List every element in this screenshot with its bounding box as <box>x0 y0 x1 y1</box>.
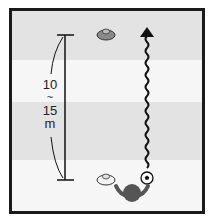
dribble-arrow-icon <box>140 27 154 168</box>
diagram-overlay <box>0 0 214 221</box>
distance-label-unit: m <box>38 117 62 130</box>
distance-label: 10 ~ 15 m <box>38 78 62 130</box>
distance-label-min: 10 <box>38 78 62 91</box>
bottom-cone-icon <box>97 174 115 185</box>
top-cone-icon <box>97 29 115 40</box>
soccer-ball-icon <box>141 172 153 184</box>
player-icon <box>116 184 148 202</box>
